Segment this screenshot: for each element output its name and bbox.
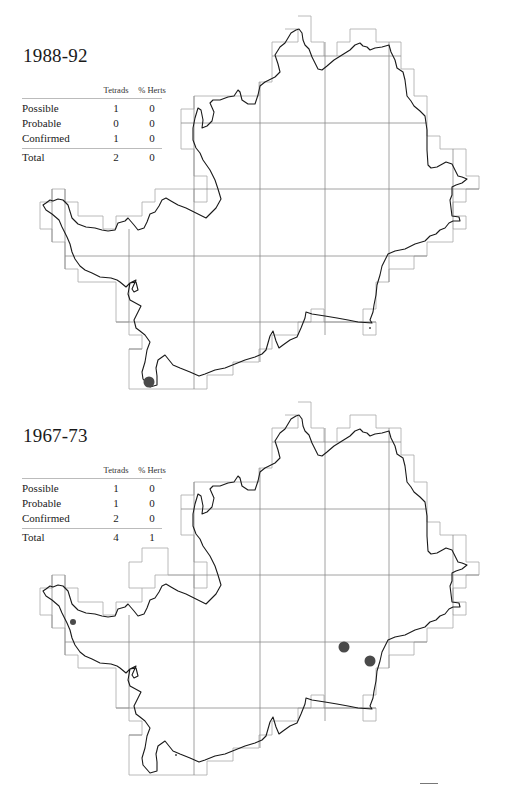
- record-dot-possible: [369, 327, 371, 329]
- record-dot-confirmed: [339, 642, 350, 653]
- tetrad-edge-extra: [129, 548, 194, 588]
- scale-bar: [420, 783, 438, 784]
- records-1988-92: [144, 327, 372, 388]
- distribution-maps: [0, 0, 507, 795]
- map-1988-92: [40, 16, 479, 389]
- record-dot-probable: [70, 619, 76, 625]
- record-dot-confirmed: [365, 656, 376, 667]
- map-1967-73: [40, 402, 479, 775]
- record-dot-possible: [175, 754, 177, 756]
- record-dot-confirmed: [144, 377, 155, 388]
